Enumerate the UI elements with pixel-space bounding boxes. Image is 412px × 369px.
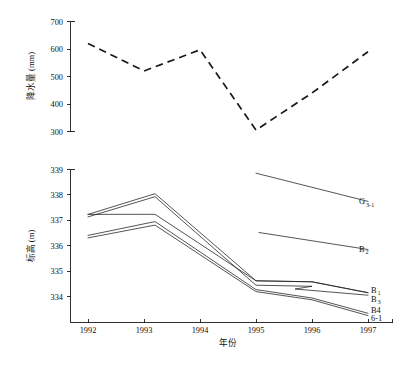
- lower-x-tick-label-1993: 1993: [136, 326, 153, 335]
- lower-x-tick-label-1992: 1992: [80, 326, 97, 335]
- lower-y-tick-label-338: 338: [51, 191, 63, 200]
- series-label-b1-base: B: [371, 286, 377, 295]
- series-line-b3: [88, 197, 368, 296]
- upper-y-tick-label-400: 400: [51, 100, 63, 109]
- series-label-b2: B 2: [359, 245, 369, 256]
- lower-x-tick-label-1997: 1997: [360, 326, 377, 335]
- series-line-g3-1: [256, 173, 368, 201]
- series-label-6-1-base: 6-1: [371, 314, 382, 323]
- lower-x-tick-label-1996: 1996: [304, 326, 321, 335]
- series-label-b3-base: B: [371, 295, 377, 304]
- lower-x-axis-title: 年份: [219, 337, 237, 348]
- lower-y-tick-label-339: 339: [51, 166, 63, 175]
- upper-precipitation-line: [88, 44, 368, 131]
- lower-x-ticks: [88, 319, 368, 323]
- upper-y-tick-label-500: 500: [51, 73, 63, 82]
- lower-y-tick-label-337: 337: [51, 216, 63, 225]
- upper-y-tick-label-700: 700: [51, 18, 63, 27]
- lower-y-tick-label-334: 334: [51, 293, 64, 302]
- series-line-b1: [88, 214, 368, 292]
- series-label-g3-1-base: G: [359, 197, 365, 206]
- lower-panel: 339 338 337 336 335 334 标高 (m) 1992 1993…: [25, 166, 393, 348]
- series-label-6-1: 6-1: [371, 314, 382, 323]
- series-label-b3: B 3: [371, 295, 381, 306]
- series-label-b2-sub: 2: [366, 248, 369, 255]
- upper-y-ticks: [67, 22, 71, 132]
- series-line-b4: [88, 222, 368, 314]
- series-label-b1-sub: 1: [378, 289, 381, 296]
- series-label-b3-sub: 3: [378, 298, 381, 305]
- series-line-b2: [259, 233, 368, 250]
- lower-x-tick-label-1994: 1994: [192, 326, 209, 335]
- series-label-b2-base: B: [359, 245, 365, 254]
- lower-y-axis-title: 标高 (m): [25, 230, 36, 263]
- lower-x-tick-label-1995: 1995: [248, 326, 265, 335]
- upper-panel: 700 600 500 400 300 降水量 (mm): [25, 18, 368, 137]
- upper-y-axis-title: 降水量 (mm): [25, 52, 36, 100]
- upper-y-tick-label-600: 600: [51, 45, 63, 54]
- lower-y-tick-label-336: 336: [51, 242, 63, 251]
- series-label-g3-1: G 3-1: [359, 197, 374, 208]
- lower-y-tick-label-335: 335: [51, 267, 63, 276]
- upper-y-tick-label-300: 300: [51, 128, 63, 137]
- series-label-g3-1-sub: 3-1: [366, 201, 374, 208]
- two-panel-line-chart: 700 600 500 400 300 降水量 (mm) 339 338 337…: [0, 0, 412, 369]
- lower-y-ticks: [67, 170, 71, 297]
